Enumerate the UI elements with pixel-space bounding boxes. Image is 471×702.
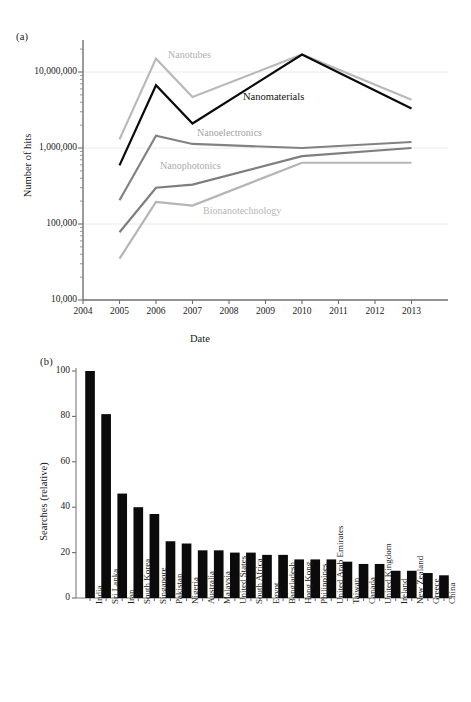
category-label: Hong Kong (303, 562, 313, 604)
x-tick-2013: 2013 (392, 306, 432, 316)
x-tick-2011: 2011 (319, 306, 359, 316)
category-label: South Korea (142, 559, 152, 604)
two-panel-figure: (a) Number of hits Date 10,000100,0001,0… (0, 0, 471, 702)
category-label: New Zealand (415, 556, 425, 604)
category-label: Ireland (399, 579, 409, 604)
y-tick-80: 80 (24, 410, 70, 420)
panel-b-bar-chart: (b) Searches (relative) 020406080100 Ind… (0, 351, 471, 702)
category-label: Canada (367, 577, 377, 604)
y-tick-1000000: 1,000,000 (1, 142, 77, 152)
y-tick-20: 20 (24, 547, 70, 557)
category-label: Philippines (319, 563, 329, 604)
series-label-bionanotechnology: Bionanotechnology (203, 205, 281, 216)
category-label: Singapore (158, 568, 168, 605)
x-tick-2005: 2005 (100, 306, 140, 316)
y-tick-0: 0 (24, 592, 70, 602)
series-label-nanophotonics: Nanophotonics (160, 160, 221, 171)
category-label: India (94, 586, 104, 605)
x-tick-2012: 2012 (355, 306, 395, 316)
category-label: China (447, 583, 457, 605)
y-tick-100: 100 (24, 365, 70, 375)
panel-b-plot-area (0, 351, 471, 702)
series-label-nanomaterials: Nanomaterials (243, 91, 304, 102)
y-tick-10000: 10,000 (1, 294, 77, 304)
panel-a-line-chart: (a) Number of hits Date 10,000100,0001,0… (0, 0, 471, 351)
bar (85, 371, 95, 598)
x-tick-2009: 2009 (246, 306, 286, 316)
y-tick-10000000: 10,000,000 (1, 66, 77, 76)
x-tick-2007: 2007 (173, 306, 213, 316)
category-label: United Arab Emirates (335, 526, 345, 604)
category-label: United States (238, 556, 248, 604)
category-label: Egypt (271, 583, 281, 605)
x-tick-2010: 2010 (282, 306, 322, 316)
category-label: Malaysia (222, 571, 232, 604)
category-label: Nigeria (190, 577, 200, 604)
x-tick-2006: 2006 (136, 306, 176, 316)
category-label: United Kingdom (383, 543, 393, 604)
x-tick-2008: 2008 (209, 306, 249, 316)
category-label: Iran (126, 590, 136, 605)
category-label: Taiwan (351, 578, 361, 604)
category-label: Australia (206, 571, 216, 604)
y-tick-40: 40 (24, 501, 70, 511)
category-label: Bangladesh (287, 562, 297, 604)
y-tick-60: 60 (24, 456, 70, 466)
x-tick-2004: 2004 (63, 306, 103, 316)
y-tick-100000: 100,000 (1, 218, 77, 228)
category-label: South Africa (254, 558, 264, 604)
category-label: Pakistan (174, 574, 184, 605)
series-label-nanotubes: Nanotubes (168, 49, 211, 60)
series-line-nanomaterials (120, 54, 412, 165)
category-label: Greece (431, 579, 441, 604)
series-label-nanoelectronics: Nanoelectronics (197, 127, 262, 138)
category-label: Sri Lanka (110, 569, 120, 604)
